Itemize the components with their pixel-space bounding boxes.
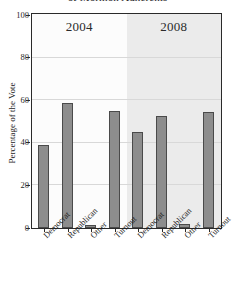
x-tick-label: Turnout	[206, 214, 232, 240]
x-tick-label: Other	[88, 219, 109, 240]
x-tick-label: Other	[182, 219, 203, 240]
bar-chart: of Mormon Adherents Percentage of the Vo…	[0, 0, 235, 291]
x-tick-label: Turnout	[112, 214, 138, 240]
x-axis: DemocratRepublicanOtherTurnoutDemocratRe…	[0, 0, 235, 291]
